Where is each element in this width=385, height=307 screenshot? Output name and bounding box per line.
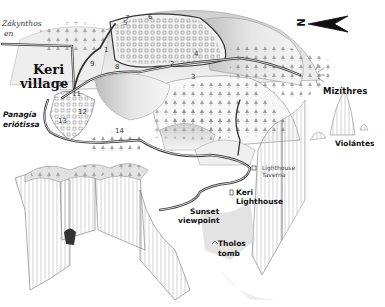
label-violantes: Violántes <box>335 140 375 148</box>
north-arrow: N <box>296 14 356 34</box>
waypoint-14: 14 <box>115 127 124 135</box>
label-tholos-1: Tholos <box>218 240 246 248</box>
label-zakynthos-sub: en <box>4 30 13 38</box>
north-letter: N <box>295 18 306 26</box>
waypoint-7: 7 <box>125 14 129 22</box>
label-keri-lighthouse-2: Lighthouse <box>236 198 283 206</box>
label-keri-lighthouse-1: Keri <box>236 189 253 197</box>
waypoint-2: 2 <box>170 60 174 68</box>
label-panagia-2: eriótissa <box>3 121 40 129</box>
map-illustration <box>0 0 385 307</box>
waypoint-1: 1 <box>104 46 108 54</box>
waypoint-8: 8 <box>115 63 119 71</box>
waypoint-4: 4 <box>194 50 198 58</box>
waypoint-3: 3 <box>191 73 195 81</box>
label-zakynthos: Zákynthos <box>2 20 42 28</box>
waypoint-13: 13 <box>58 117 67 125</box>
waypoint-11: 11 <box>72 90 81 98</box>
label-panagia-1: Panagía <box>3 111 36 119</box>
waypoint-6: 6 <box>148 13 152 21</box>
label-tholos-2: tomb <box>218 250 240 258</box>
label-sunset-1: Sunset <box>190 208 219 216</box>
waypoint-9: 9 <box>90 60 94 68</box>
label-keri-village-1: Keri <box>33 63 64 77</box>
waypoint-10: 10 <box>58 80 67 88</box>
north-arrow-icon <box>306 14 366 34</box>
label-sunset-2: viewpoint <box>178 217 220 225</box>
label-lighthouse-taverna-2: Taverna <box>262 172 285 178</box>
label-mizithres: Mizíthres <box>323 87 367 96</box>
waypoint-12: 12 <box>78 108 87 116</box>
